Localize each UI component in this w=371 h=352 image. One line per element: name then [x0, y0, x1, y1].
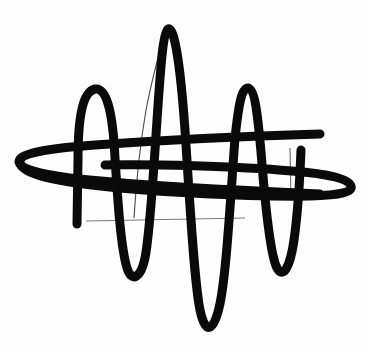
ink-drawing-canvas: Abstract Ink Brush Drawing Hand-drawn bl…	[0, 0, 371, 352]
artboard: Abstract Ink Brush Drawing Hand-drawn bl…	[0, 0, 371, 352]
